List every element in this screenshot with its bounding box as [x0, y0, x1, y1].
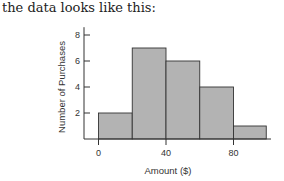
y-tick-label: 6: [75, 56, 80, 66]
x-axis-ticks: 04080: [96, 139, 239, 158]
histogram-bar: [200, 87, 234, 139]
histogram-bars: [99, 48, 267, 139]
histogram-bar: [234, 126, 267, 139]
y-axis-title: Number of Purchases: [56, 41, 67, 133]
x-axis-title: Amount ($): [145, 165, 192, 176]
y-tick-label: 2: [75, 108, 80, 118]
histogram-bar: [99, 113, 133, 139]
x-tick-label: 0: [96, 148, 101, 158]
x-tick-label: 80: [228, 148, 238, 158]
x-tick-label: 40: [161, 148, 171, 158]
histogram-bar: [132, 48, 166, 139]
y-axis-ticks: 2468: [75, 30, 90, 118]
y-tick-label: 4: [75, 82, 80, 92]
histogram-chart: 2468 04080 Amount ($) Number of Purchase…: [0, 0, 284, 181]
y-tick-label: 8: [75, 30, 80, 40]
histogram-bar: [166, 61, 200, 139]
